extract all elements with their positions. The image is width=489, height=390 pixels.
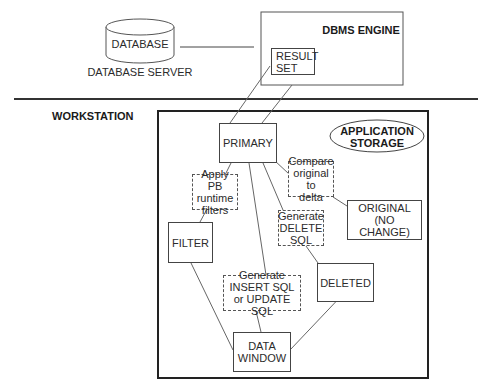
dbms-engine-title: DBMS ENGINE: [322, 24, 400, 36]
generate-insert-update-process: Generate INSERT SQL or UPDATE SQL: [223, 275, 301, 311]
compare-process: Compare original to delta: [288, 161, 334, 197]
primary-buffer-box: PRIMARY: [219, 123, 277, 163]
database-label: DATABASE: [106, 38, 174, 50]
connector-gendelete-deleted: [306, 246, 318, 263]
deleted-buffer-box: DELETED: [317, 263, 374, 302]
workstation-title: WORKSTATION: [52, 110, 132, 122]
data-window-box: DATA WINDOW: [233, 332, 291, 372]
connector-primary-gendelete: [263, 163, 283, 210]
connector-compare-original: [333, 197, 347, 206]
result-set-box: RESULT SET: [271, 48, 315, 75]
filter-buffer-box: FILTER: [168, 222, 213, 263]
connector-resultset-primary-2: [262, 85, 292, 123]
apply-filters-process: Apply PB runtime filters: [192, 174, 238, 210]
application-storage-label: APPLICATION STORAGE: [332, 125, 422, 149]
database-server-caption: DATABASE SERVER: [80, 66, 200, 78]
connector-resultset-primary-1: [230, 66, 270, 123]
generate-delete-process: Generate DELETE SQL: [278, 210, 324, 246]
connector-primary-geninsert: [249, 163, 266, 275]
original-buffer-box: ORIGINAL (NO CHANGE): [347, 200, 422, 240]
